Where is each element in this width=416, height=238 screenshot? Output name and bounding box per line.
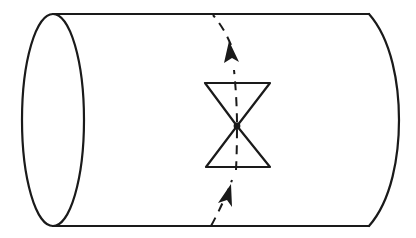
arrowhead-lower-icon bbox=[218, 184, 232, 207]
diagram-canvas: Cylinder with hourglass (double-cone) an… bbox=[0, 0, 416, 238]
cylinder-diagram bbox=[0, 0, 416, 238]
hourglass-lower-cone bbox=[206, 126, 270, 167]
dashed-curve-middle bbox=[234, 70, 237, 170]
cylinder-right-end bbox=[369, 14, 399, 226]
apex-point bbox=[234, 123, 241, 130]
cylinder-left-end bbox=[22, 14, 84, 226]
dashed-curve-upper bbox=[213, 15, 231, 45]
dashed-curve-lower bbox=[211, 180, 232, 226]
